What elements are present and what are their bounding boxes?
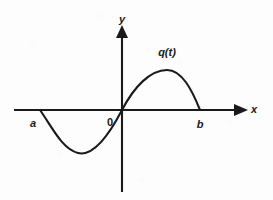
- point-label-a: a: [30, 117, 36, 129]
- y-axis-arrow-icon: [116, 25, 128, 38]
- math-graph-figure: y x 0 a b q(t): [0, 0, 273, 200]
- x-axis-label: x: [250, 103, 258, 115]
- origin-label: 0: [107, 116, 113, 128]
- curve-label-q-of-t: q(t): [158, 46, 176, 58]
- figure-canvas: y x 0 a b q(t): [0, 0, 273, 200]
- y-axis-label: y: [118, 13, 126, 25]
- curve-q-of-t: [40, 70, 200, 153]
- point-label-b: b: [197, 118, 204, 130]
- x-axis-arrow-icon: [234, 104, 248, 116]
